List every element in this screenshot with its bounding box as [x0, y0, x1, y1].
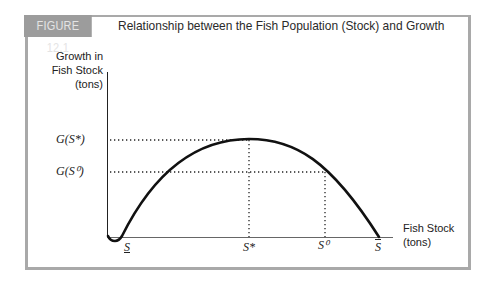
- tick-label-s-zero: S⁰: [318, 238, 329, 253]
- tick-label-s-low: S: [124, 240, 130, 255]
- tick-label-gs-zero: G(S⁰): [56, 164, 84, 179]
- x-axis-label: Fish Stock (tons): [403, 221, 454, 249]
- growth-curve: [108, 139, 379, 241]
- tick-label-s-bar: S: [375, 240, 381, 255]
- x-axis-label-line-2: (tons): [403, 235, 454, 249]
- x-axis-label-line-1: Fish Stock: [403, 221, 454, 235]
- tick-label-s-star: S*: [243, 240, 255, 255]
- tick-label-gs-star: G(S*): [56, 132, 85, 147]
